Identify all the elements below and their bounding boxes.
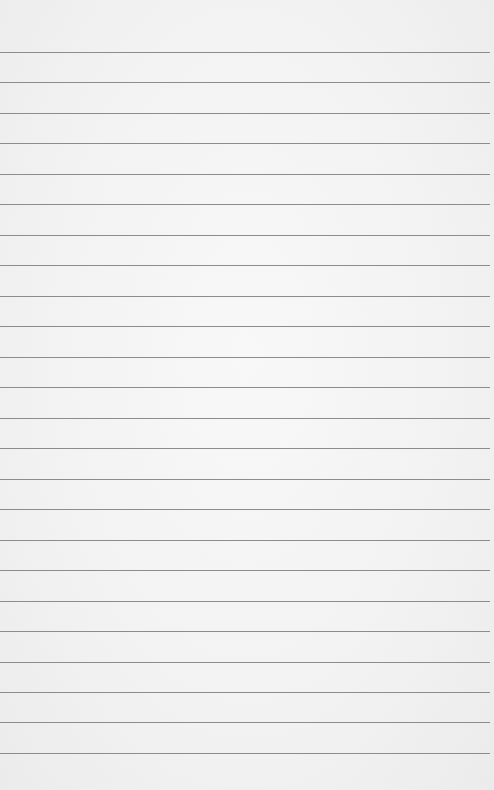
ruled-line <box>0 479 490 480</box>
ruled-line <box>0 448 490 449</box>
ruled-line <box>0 113 490 114</box>
ruled-line <box>0 570 490 571</box>
lined-paper-sheet <box>0 0 494 790</box>
ruled-line <box>0 387 490 388</box>
ruled-line <box>0 509 490 510</box>
ruled-line <box>0 52 490 53</box>
ruled-line <box>0 326 490 327</box>
ruled-line <box>0 265 490 266</box>
ruled-line <box>0 753 490 754</box>
ruled-line <box>0 540 490 541</box>
ruled-line <box>0 631 490 632</box>
ruled-line <box>0 692 490 693</box>
ruled-line <box>0 143 490 144</box>
ruled-line <box>0 296 490 297</box>
ruled-line <box>0 82 490 83</box>
ruled-line <box>0 235 490 236</box>
ruled-line <box>0 418 490 419</box>
ruled-line <box>0 722 490 723</box>
ruled-line <box>0 662 490 663</box>
ruled-line <box>0 357 490 358</box>
ruled-line <box>0 204 490 205</box>
ruled-line <box>0 601 490 602</box>
ruled-line <box>0 174 490 175</box>
